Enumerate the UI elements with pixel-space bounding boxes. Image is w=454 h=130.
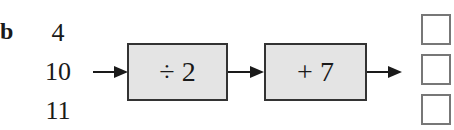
answer-box-2[interactable]: [421, 54, 451, 85]
operation-box-add: + 7: [264, 43, 367, 101]
operation-box-divide: ÷ 2: [127, 43, 228, 101]
answer-box-1[interactable]: [421, 14, 451, 45]
operation-label: + 7: [297, 56, 334, 88]
operation-label: ÷ 2: [159, 56, 195, 88]
answer-box-3[interactable]: [421, 94, 451, 125]
